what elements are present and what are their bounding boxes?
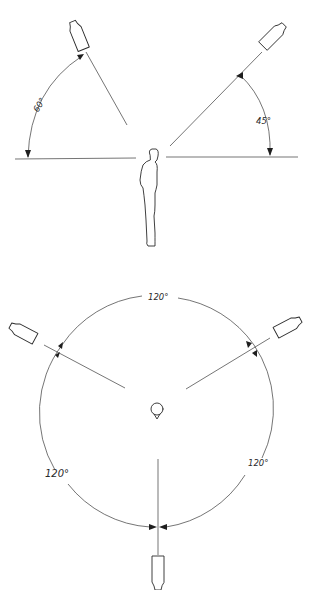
arrowhead-icon — [159, 524, 167, 530]
lighting-diagram: 60° 45° 120° 120° 120° — [0, 0, 316, 590]
arc-label-right: 120° — [248, 458, 268, 468]
circle-arc-right — [254, 345, 273, 458]
person-figure-icon — [140, 149, 158, 246]
elevation-diagram: 60° 45° — [15, 19, 298, 246]
angle-label-45: 45° — [256, 116, 271, 126]
angle-label-60: 60° — [31, 96, 47, 114]
circle-arc-top-right — [178, 298, 254, 345]
circle-arc-bottom-left — [68, 484, 150, 527]
arc-label-top: 120° — [148, 292, 168, 302]
right-light-icon — [259, 21, 289, 51]
arrowhead-icon — [55, 352, 60, 358]
horizon-line-left — [15, 158, 136, 159]
angle-arc-45 — [240, 75, 270, 155]
bottom-light-icon — [152, 556, 164, 590]
right-light-beam — [170, 52, 262, 146]
upper-left-light-icon — [8, 320, 38, 344]
arc-label-left: 120° — [45, 468, 69, 479]
upper-left-light-beam — [44, 345, 125, 388]
subject-head-icon — [151, 403, 163, 419]
left-light-icon — [67, 19, 89, 51]
circle-arc-left — [39, 345, 62, 470]
left-light-beam — [86, 52, 127, 125]
arrowhead-icon — [252, 350, 257, 357]
arrowhead-icon — [267, 148, 273, 156]
upper-right-light-beam — [186, 338, 270, 389]
arrowhead-icon — [25, 150, 31, 158]
plan-diagram: 120° 120° 120° — [8, 292, 304, 590]
arrowhead-icon — [246, 341, 252, 348]
circle-arc-top — [62, 296, 142, 345]
arrowhead-icon — [149, 524, 157, 530]
circle-arc-bottom-right — [166, 475, 245, 527]
upper-right-light-icon — [273, 314, 303, 338]
arrowhead-icon — [58, 342, 63, 349]
